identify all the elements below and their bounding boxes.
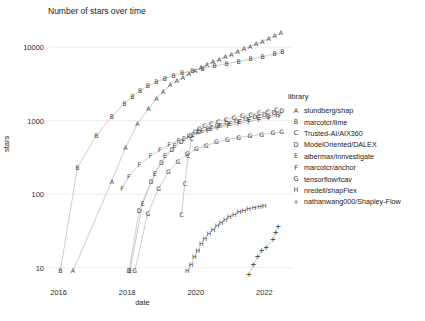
svg-text:E: E — [163, 152, 167, 159]
legend-marker-icon: H — [288, 186, 304, 194]
svg-text:B: B — [225, 60, 229, 67]
svg-text:G: G — [225, 136, 230, 143]
legend-item-label: slundberg/shap — [304, 106, 353, 115]
plot-area: AAAAAAAAAAAAAAAAAAAAAAAAAABBBBBBBBBBBBBB… — [50, 22, 285, 284]
svg-text:F: F — [120, 185, 124, 192]
svg-text:F: F — [237, 120, 241, 127]
svg-text:H: H — [192, 253, 197, 260]
svg-text:G: G — [194, 145, 199, 152]
svg-text:G: G — [145, 210, 150, 217]
svg-text:B: B — [273, 50, 277, 57]
svg-text:E: E — [141, 200, 145, 207]
legend-item-c[interactable]: CTrusted-AI/AIX360 — [288, 128, 423, 139]
svg-text:F: F — [227, 122, 231, 129]
svg-text:H: H — [246, 205, 251, 212]
legend-item-h[interactable]: Hnredell/shapFlex — [288, 185, 423, 196]
chart-title: Number of stars over time — [48, 6, 146, 16]
series-I: ++++++++ — [246, 222, 281, 279]
svg-text:B: B — [94, 132, 98, 139]
svg-text:B: B — [237, 58, 241, 65]
svg-text:B: B — [138, 87, 142, 94]
svg-text:B: B — [163, 75, 167, 82]
svg-text:F: F — [167, 141, 171, 148]
legend-marker-icon: A — [288, 107, 304, 115]
svg-text:F: F — [247, 118, 251, 125]
legend-item-label: nredell/shapFlex — [304, 186, 357, 195]
legend-item-label: albermax/innvestigate — [304, 152, 374, 161]
legend-marker-icon: F — [288, 164, 304, 172]
svg-text:G: G — [204, 142, 209, 149]
legend-item-b[interactable]: Bmarcotcr/lime — [288, 116, 423, 127]
svg-text:B: B — [201, 65, 205, 72]
svg-text:A: A — [236, 48, 241, 55]
legend-marker-icon: G — [288, 175, 304, 183]
svg-text:F: F — [137, 161, 141, 168]
svg-text:B: B — [261, 53, 265, 60]
svg-text:A: A — [279, 29, 284, 36]
svg-text:+: + — [275, 222, 281, 231]
svg-text:B: B — [122, 100, 126, 107]
svg-text:+: + — [263, 243, 269, 252]
svg-text:C: C — [183, 180, 187, 187]
svg-text:B: B — [190, 67, 194, 74]
legend-title: library — [288, 92, 423, 101]
legend-item-a[interactable]: Aslundberg/shap — [288, 105, 423, 116]
svg-text:+: + — [250, 260, 256, 269]
svg-text:A: A — [229, 51, 234, 58]
svg-text:E: E — [200, 127, 204, 134]
svg-text:G: G — [132, 267, 137, 274]
svg-text:A: A — [123, 144, 128, 151]
svg-text:G: G — [156, 185, 161, 192]
svg-text:A: A — [161, 88, 166, 95]
svg-text:B: B — [130, 93, 134, 100]
legend-item-d[interactable]: DModelOriented/DALEX — [288, 139, 423, 150]
legend-item-label: nathanwang000/Shapley-Flow — [304, 197, 401, 206]
svg-text:G: G — [236, 134, 241, 141]
svg-text:A: A — [168, 81, 173, 88]
svg-text:H: H — [196, 247, 201, 254]
x-axis-label: date — [0, 298, 285, 307]
svg-text:H: H — [252, 204, 257, 211]
svg-text:F: F — [268, 114, 272, 121]
svg-text:F: F — [257, 116, 261, 123]
svg-text:G: G — [271, 129, 276, 136]
svg-text:B: B — [154, 78, 158, 85]
legend-item-g[interactable]: Gtensorflow/tcav — [288, 173, 423, 184]
svg-text:B: B — [213, 62, 217, 69]
svg-text:A: A — [248, 43, 253, 50]
svg-text:A: A — [260, 38, 265, 45]
legend-item-e[interactable]: Ealbermax/innvestigate — [288, 151, 423, 162]
legend-item-label: marcotcr/lime — [304, 118, 347, 127]
legend-item-label: marcotcr/anchor — [304, 163, 356, 172]
y-axis-label: stars — [2, 136, 11, 152]
svg-text:B: B — [180, 69, 184, 76]
x-tick-label: 2018 — [107, 288, 147, 297]
svg-text:A: A — [266, 35, 271, 42]
series-A: AAAAAAAAAAAAAAAAAAAAAAAAAA — [71, 29, 284, 274]
svg-text:H: H — [262, 202, 267, 209]
legend-item-label: ModelOriented/DALEX — [304, 140, 377, 149]
plot-svg: AAAAAAAAAAAAAAAAAAAAAAAAAABBBBBBBBBBBBBB… — [50, 22, 285, 284]
legend-marker-icon: + — [288, 198, 304, 206]
svg-text:E: E — [209, 125, 213, 132]
x-tick-label: 2020 — [176, 288, 216, 297]
x-tick-label: 2016 — [39, 288, 79, 297]
svg-text:F: F — [158, 146, 162, 153]
x-tick-label: 2022 — [244, 288, 284, 297]
legend-item-i[interactable]: +nathanwang000/Shapley-Flow — [288, 196, 423, 207]
svg-text:G: G — [279, 128, 284, 135]
legend-item-f[interactable]: Fmarcotcr/anchor — [288, 162, 423, 173]
svg-text:B: B — [146, 82, 150, 89]
svg-text:B: B — [249, 55, 253, 62]
svg-text:A: A — [71, 267, 76, 274]
svg-text:G: G — [176, 158, 181, 165]
svg-text:G: G — [248, 132, 253, 139]
svg-text:A: A — [223, 53, 228, 60]
svg-text:A: A — [242, 45, 247, 52]
svg-text:B: B — [58, 267, 62, 274]
chart-root: Number of stars over time AAAAAAAAAAAAAA… — [0, 0, 425, 321]
svg-text:A: A — [273, 32, 278, 39]
legend-items: Aslundberg/shapBmarcotcr/limeCTrusted-AI… — [288, 105, 423, 208]
y-tick-label: 1000 — [0, 116, 44, 125]
svg-text:H: H — [189, 261, 194, 268]
